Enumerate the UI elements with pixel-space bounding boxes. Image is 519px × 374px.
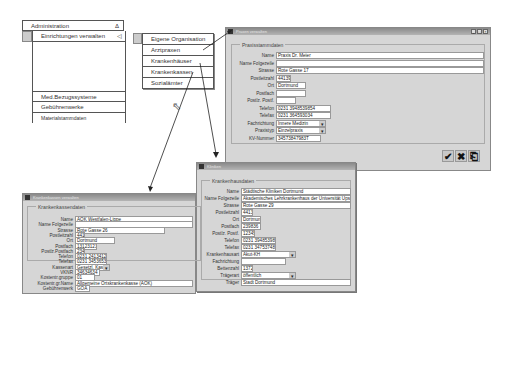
connector-arrows — [0, 0, 519, 374]
